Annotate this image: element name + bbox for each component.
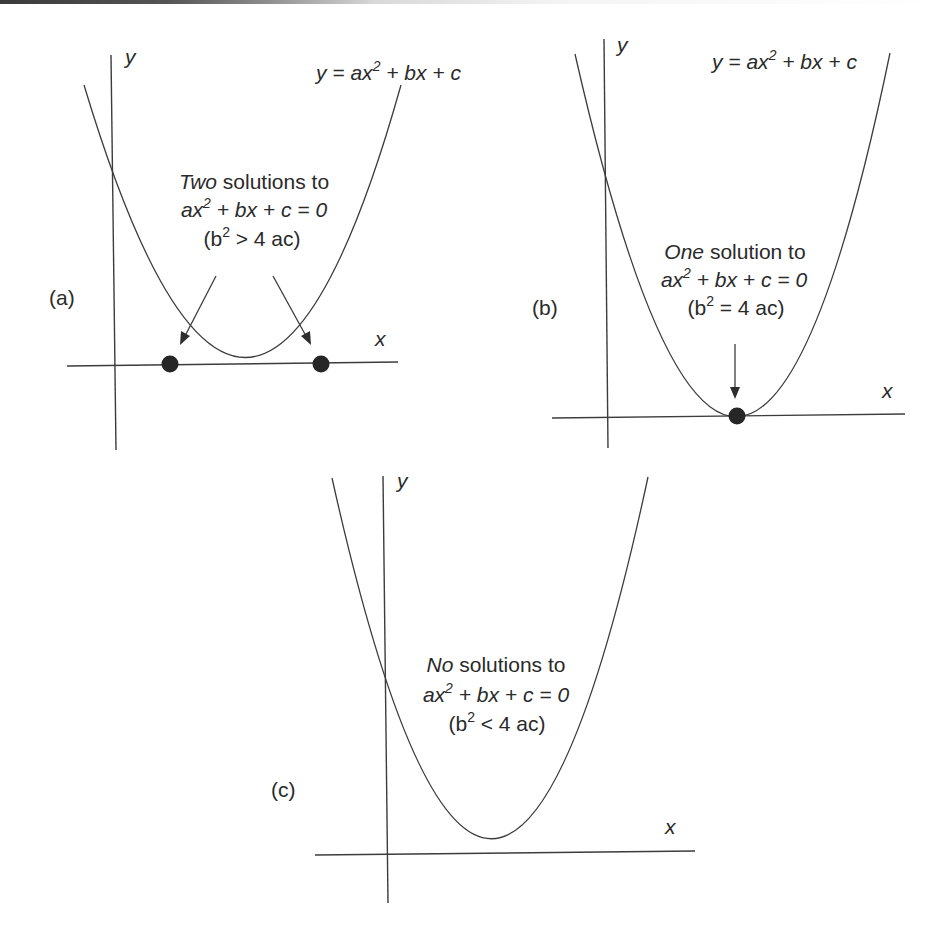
caption-line-1: No solutions to [427, 653, 566, 676]
x-axis [67, 362, 398, 366]
x-axis-label: x [881, 379, 894, 402]
x-axis-label: x [664, 815, 677, 838]
panel-label: (a) [49, 286, 75, 309]
y-axis-label: y [395, 469, 409, 492]
caption-line-1: Two solutions to [179, 170, 329, 193]
caption-condition: (b2 = 4 ac) [687, 293, 784, 319]
root-point-right [313, 356, 330, 373]
panel-label: (c) [271, 778, 296, 801]
x-axis [315, 851, 695, 855]
x-axis-label: x [374, 327, 387, 350]
caption-condition: (b2 < 4 ac) [448, 709, 545, 735]
curve-equation: y = ax2 + bx + c [710, 47, 857, 73]
y-axis [383, 476, 388, 903]
caption-equation: ax2 + bx + c = 0 [661, 265, 807, 291]
caption-equation: ax2 + bx + c = 0 [181, 195, 327, 221]
arrow-down [730, 344, 740, 399]
caption-line-1: One solution to [664, 240, 805, 263]
y-axis-label: y [615, 33, 629, 56]
root-point-left [162, 356, 179, 373]
root-point-double [729, 408, 746, 425]
panel-b: y x (b) y = ax2 + bx + c One solution to… [532, 33, 905, 448]
arrow-left [180, 276, 216, 345]
panel-a: y x (a) y = ax2 + bx + c Two solutions t… [49, 45, 461, 450]
y-axis [111, 55, 116, 450]
panel-c: y x (c) No solutions to ax2 + bx + c = 0… [271, 469, 695, 903]
parabola-curve [84, 85, 401, 358]
caption-condition: (b2 > 4 ac) [203, 224, 300, 250]
quadratic-roots-figure: y x (a) y = ax2 + bx + c Two solutions t… [0, 0, 936, 949]
parabola-curve [575, 53, 890, 417]
arrowhead-icon [301, 331, 311, 345]
panel-label: (b) [532, 296, 558, 319]
curve-equation: y = ax2 + bx + c [314, 58, 461, 84]
arrowhead-icon [180, 331, 190, 345]
caption-equation: ax2 + bx + c = 0 [423, 680, 569, 706]
arrowhead-icon [730, 387, 740, 399]
y-axis [604, 39, 608, 448]
y-axis-label: y [123, 45, 137, 68]
arrow-right [273, 276, 311, 345]
